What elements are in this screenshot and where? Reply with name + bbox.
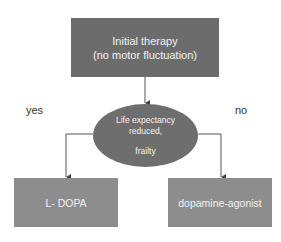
decision-line2: reduced, [129,126,162,137]
l-dopa-label: L- DOPA [45,197,86,209]
initial-therapy-node: Initial therapy (no motor fluctuation) [71,18,219,77]
yes-branch-label: yes [26,104,43,116]
initial-therapy-line1: Initial therapy [112,34,177,48]
decision-line3: frailty [135,146,155,157]
decision-line1: Life expectancy [116,115,175,126]
decision-node: Life expectancy reduced, frailty [93,104,198,167]
connector-decision-to-yes [66,134,93,177]
initial-therapy-line2: (no motor fluctuation) [93,48,197,62]
no-branch-label: no [235,104,247,116]
connector-decision-to-no [198,134,221,177]
l-dopa-node: L- DOPA [14,178,118,227]
dopamine-agonist-node: dopamine-agonist [168,178,272,227]
dopamine-agonist-label: dopamine-agonist [178,197,261,209]
